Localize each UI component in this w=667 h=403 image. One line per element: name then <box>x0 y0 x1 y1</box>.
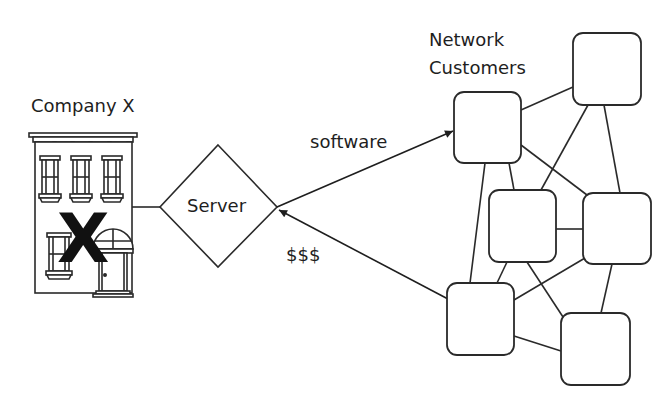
network-node-c <box>489 190 556 262</box>
company-x-mark: X <box>57 205 109 273</box>
software-label: software <box>310 133 387 151</box>
server-label: Server <box>187 197 246 215</box>
network-node-d <box>583 193 651 264</box>
diagram-canvas: X Company X Server Network Customers sof… <box>0 0 667 403</box>
network-title-line2: Customers <box>429 59 526 77</box>
network-node-b <box>573 33 641 105</box>
network-node-f <box>561 313 630 385</box>
network-title-line1: Network <box>429 31 504 49</box>
network-node-e <box>447 283 514 355</box>
company-label: Company X <box>31 97 135 115</box>
money-label: $$$ <box>286 246 320 264</box>
network-node-a <box>454 92 521 163</box>
